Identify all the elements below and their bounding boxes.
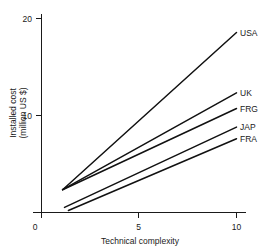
x-axis-title: Technical complexity: [101, 236, 180, 246]
y-tick-label-20: 20: [23, 14, 33, 24]
x-tick-label-10: 10: [232, 222, 242, 232]
series-label-usa: USA: [240, 28, 258, 38]
series-label-fra: FRA: [240, 134, 257, 144]
series-line-frg: [63, 109, 237, 190]
series-line-jap: [65, 127, 237, 207]
series-label-uk: UK: [240, 88, 252, 98]
x-tick-label-0: 0: [33, 222, 38, 232]
x-tick-label-5: 5: [136, 222, 141, 232]
chart-container: 10 20 0 5 10 Technical complexity Instal…: [0, 0, 260, 249]
y-axis-title-line1: Installed cost: [8, 88, 18, 138]
line-chart: 10 20 0 5 10 Technical complexity Instal…: [0, 0, 260, 249]
series-label-jap: JAP: [240, 122, 256, 132]
series-line-usa: [63, 33, 237, 190]
y-axis-title-line2: (million US $): [18, 87, 28, 138]
series-label-frg: FRG: [240, 104, 258, 114]
series-group: [63, 33, 237, 211]
